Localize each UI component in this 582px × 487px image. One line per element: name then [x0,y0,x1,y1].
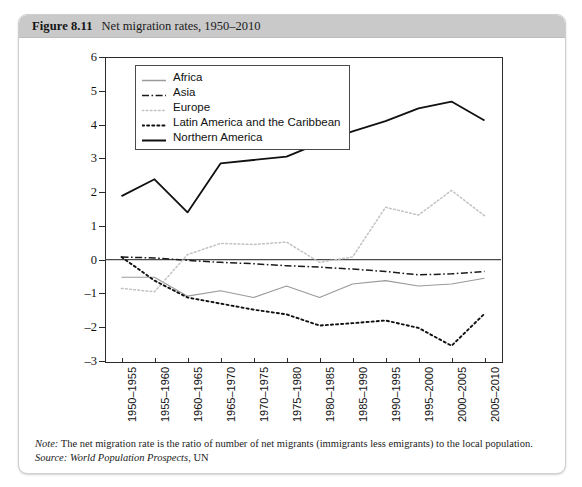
x-tick-mark [320,358,321,363]
source-title: World Population Prospects [70,452,188,463]
x-tick-label: 1960–1965 [192,367,204,422]
legend-label: Africa [173,72,202,84]
x-tick-mark [452,358,453,363]
y-tick-label: –3 [85,354,98,369]
y-tick-label: 0 [91,252,97,267]
x-tick-label: 1980–1985 [324,367,336,422]
x-tick-mark [221,358,222,363]
x-tick-label: 1975–1980 [291,367,303,422]
y-tick-label: 6 [91,50,97,65]
x-tick-label: 2000–2005 [456,367,468,422]
figure-number: Figure 8.11 [32,19,93,34]
x-tick-mark [287,358,288,363]
series-line [122,277,485,297]
legend-swatch-icon [142,87,166,98]
x-tick-label: 2005–2010 [489,367,501,422]
figure-panel: Figure 8.11 Net migration rates, 1950–20… [18,14,566,474]
x-tick-label: 1995–2000 [423,367,435,422]
legend-label: Asia [173,87,195,99]
figure-note: Note: The net migration rate is the rati… [35,437,549,451]
legend-swatch-icon [142,117,166,128]
y-axis: 6543210–1–2–3 [19,57,105,361]
note-text: The net migration rate is the ratio of n… [61,438,533,449]
y-tick-label: –1 [85,286,98,301]
x-tick-label: 1965–1970 [225,367,237,422]
x-tick-mark [386,358,387,363]
x-tick-mark [188,358,189,363]
legend-item[interactable]: Northern America [142,130,341,145]
figure-title: Net migration rates, 1950–2010 [102,19,261,34]
x-tick-label: 1990–1995 [390,367,402,422]
note-label: Note: [35,438,58,449]
x-tick-label: 1985–1990 [357,367,369,422]
chart-area: 6543210–1–2–3 1950–19551955–19601960–196… [19,37,565,437]
series-line [122,257,485,346]
legend-item[interactable]: Asia [142,85,341,100]
legend-label: Northern America [173,132,262,144]
legend-item[interactable]: Latin America and the Caribbean [142,115,341,130]
figure-source: Source: World Population Prospects, UN [35,451,549,465]
figure-header: Figure 8.11 Net migration rates, 1950–20… [19,15,565,38]
chart-legend: AfricaAsiaEuropeLatin America and the Ca… [135,65,350,150]
x-tick-mark [353,358,354,363]
legend-swatch-icon [142,72,166,83]
legend-swatch-icon [142,132,166,143]
legend-label: Latin America and the Caribbean [173,117,341,129]
x-tick-label: 1970–1975 [258,367,270,422]
x-tick-mark [254,358,255,363]
x-tick-mark [122,358,123,363]
source-publisher: , UN [188,452,208,463]
y-tick-label: 2 [91,185,97,200]
x-tick-label: 1955–1960 [159,367,171,422]
legend-label: Europe [173,102,210,114]
y-tick-label: 3 [91,151,97,166]
x-tick-mark [419,358,420,363]
y-tick-label: 1 [91,218,97,233]
figure-footer: Note: The net migration rate is the rati… [19,437,565,473]
source-label: Source: [35,452,67,463]
x-tick-label: 1950–1955 [126,367,138,422]
legend-item[interactable]: Africa [142,70,341,85]
x-tick-mark [485,358,486,363]
y-tick-label: 5 [91,83,97,98]
x-axis: 1950–19551955–19601960–19651965–19701970… [105,363,501,437]
screenshot-root: Figure 8.11 Net migration rates, 1950–20… [0,0,582,487]
x-tick-mark [155,358,156,363]
series-line [122,190,485,291]
y-tick-label: 4 [91,117,97,132]
y-tick-label: –2 [85,320,98,335]
legend-swatch-icon [142,102,166,113]
legend-item[interactable]: Europe [142,100,341,115]
